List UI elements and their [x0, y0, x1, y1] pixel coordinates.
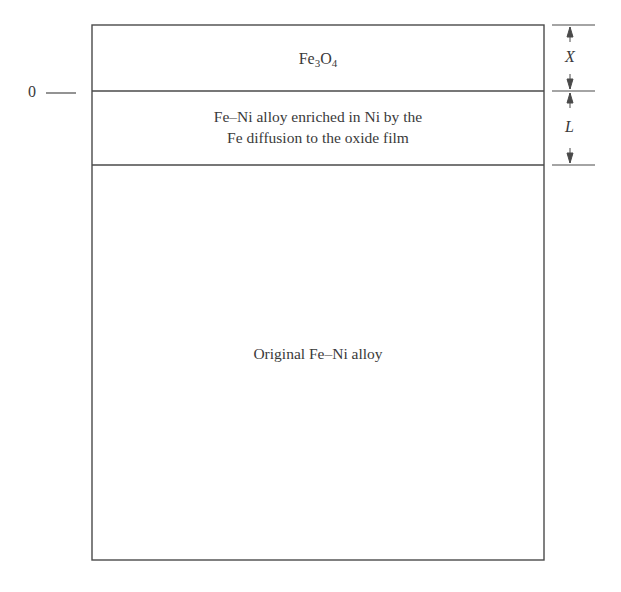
oxide-layer-label: Fe3O4	[92, 48, 544, 69]
diagram-lines	[0, 0, 621, 592]
enriched-line-2: Fe diffusion to the oxide film	[92, 127, 544, 148]
enriched-line-1: Fe–Ni alloy enriched in Ni by the	[92, 106, 544, 127]
oxide-fe: Fe	[299, 50, 315, 67]
origin-label: 0	[28, 83, 36, 101]
x-dimension-label: X	[565, 48, 575, 66]
oxide-o: O	[320, 50, 332, 67]
original-layer-label: Original Fe–Ni alloy	[92, 343, 544, 364]
enriched-layer-label: Fe–Ni alloy enriched in Ni by the Fe dif…	[92, 106, 544, 148]
oxide-sub-4: 4	[332, 57, 338, 69]
l-dimension-label: L	[565, 118, 574, 136]
